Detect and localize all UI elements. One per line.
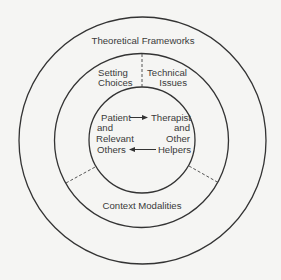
technical-issues-label-line2: Issues <box>159 77 187 88</box>
divider-bottom-left <box>66 166 97 183</box>
therapist-label-line1: Therapist <box>151 112 191 123</box>
patient-label-line2: and <box>97 122 113 133</box>
divider-bottom-right <box>189 166 219 183</box>
patient-label-line1: Patient <box>101 112 131 123</box>
theoretical-frameworks-label: Theoretical Frameworks <box>92 35 195 46</box>
context-modalities-label: Context Modalities <box>103 200 182 211</box>
setting-choices-label-line2: Choices <box>98 77 133 88</box>
nested-circles-diagram: Theoretical Frameworks Setting Choices T… <box>0 0 281 280</box>
setting-choices-label-line1: Setting <box>98 67 128 78</box>
patient-label-line3: Relevant <box>96 133 134 144</box>
therapist-label-line3: Other <box>166 133 191 144</box>
patient-label-line4: Others <box>97 144 126 155</box>
technical-issues-label-line1: Technical <box>147 67 187 78</box>
therapist-label-line4: Helpers <box>158 144 191 155</box>
therapist-label-line2: and <box>174 122 190 133</box>
